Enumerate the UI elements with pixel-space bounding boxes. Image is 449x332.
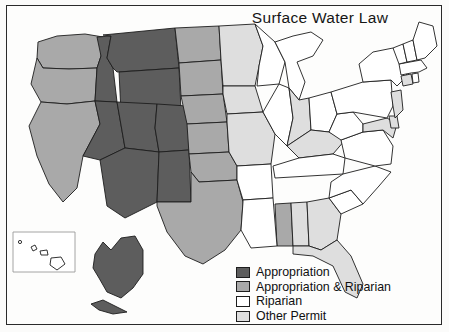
- state-maine: [413, 22, 437, 60]
- state-rhode-island: [412, 73, 419, 83]
- state-arizona: [100, 148, 159, 218]
- state-washington: [37, 34, 103, 69]
- state-connecticut: [401, 74, 413, 86]
- state-new-jersey: [391, 90, 403, 118]
- map-figure: Surface Water Law: [0, 0, 449, 332]
- state-louisiana: [241, 198, 277, 248]
- legend-swatch-appropriation-riparian: [236, 281, 250, 292]
- state-mississippi: [275, 203, 293, 246]
- legend-swatch-riparian: [236, 296, 250, 307]
- state-montana: [103, 28, 179, 72]
- legend-item-other-permit: Other Permit: [236, 309, 391, 324]
- legend-label-appropriation-riparian: Appropriation & Riparian: [256, 281, 391, 293]
- legend-swatch-appropriation: [236, 267, 250, 278]
- legend-item-riparian: Riparian: [236, 294, 391, 309]
- state-arkansas: [237, 164, 273, 200]
- state-south-dakota: [179, 60, 223, 96]
- state-oklahoma: [189, 152, 237, 182]
- state-alaska: [91, 236, 143, 314]
- legend-label-riparian: Riparian: [256, 295, 302, 307]
- state-new-mexico: [157, 150, 191, 202]
- legend: Appropriation Appropriation & Riparian R…: [236, 265, 391, 323]
- legend-item-appropriation: Appropriation: [236, 265, 391, 280]
- state-alabama: [291, 202, 309, 246]
- state-pennsylvania: [331, 80, 393, 118]
- legend-item-appropriation-riparian: Appropriation & Riparian: [236, 280, 391, 295]
- state-delaware: [389, 116, 399, 128]
- state-minnesota: [219, 24, 263, 86]
- state-tennessee: [273, 154, 345, 178]
- legend-label-appropriation: Appropriation: [256, 266, 330, 278]
- state-iowa: [223, 86, 263, 114]
- legend-swatch-other-permit: [236, 311, 250, 322]
- legend-label-other-permit: Other Permit: [256, 310, 326, 322]
- state-hawaii-kauai: [18, 240, 21, 243]
- state-nebraska: [181, 94, 227, 124]
- state-north-dakota: [175, 26, 221, 63]
- state-hawaii-maui: [40, 250, 48, 255]
- state-kansas: [187, 122, 229, 154]
